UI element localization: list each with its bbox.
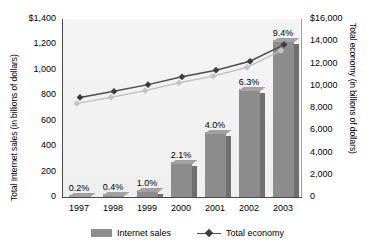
legend-item-total-economy: Total economy (197, 228, 284, 238)
y-axis-right-line (301, 19, 302, 197)
bar-label-2003: 9.4% (261, 28, 305, 38)
legend-line-icon (197, 229, 221, 237)
y-axis-right-tick: 12,000 (310, 58, 356, 68)
y-axis-right-tick: 4,000 (310, 147, 356, 157)
y-axis-left-tick: 1,000 (14, 64, 56, 74)
y-axis-right-tick: $16,000 (310, 13, 356, 23)
line-marker-1999 (145, 81, 152, 88)
legend-swatch-icon (91, 229, 112, 237)
line-marker-shadow (74, 100, 81, 107)
legend-label-total-economy: Total economy (226, 228, 284, 238)
line-marker-2000 (179, 73, 186, 80)
line-marker-1998 (111, 88, 118, 95)
legend-diamond-icon (205, 229, 213, 237)
line-series-total-economy (63, 19, 301, 197)
y-axis-left-tick: $1,400 (14, 13, 56, 23)
y-axis-left-tick: 800 (14, 89, 56, 99)
y-axis-left-tick: 600 (14, 115, 56, 125)
chart-title (0, 0, 375, 4)
legend-item-internet-sales: Internet sales (91, 228, 171, 238)
y-axis-right-tick: 0 (310, 191, 356, 201)
y-axis-left-tick: 0 (14, 191, 56, 201)
line-marker-shadow (210, 73, 217, 80)
bar-label-2001: 4.0% (193, 120, 237, 130)
y-axis-left-title: Total Internet sales (in billions of dol… (9, 54, 19, 201)
legend-label-internet-sales: Internet sales (117, 228, 171, 238)
line-marker-1997 (77, 94, 84, 101)
y-axis-left-tick: 200 (14, 166, 56, 176)
x-axis-line (62, 197, 302, 199)
line-marker-shadow (142, 87, 149, 94)
bar-label-1999: 1.0% (125, 178, 169, 188)
y-axis-right-tick: 6,000 (310, 124, 356, 134)
y-axis-left-tick: 1,200 (14, 38, 56, 48)
bar-label-2002: 6.3% (227, 77, 271, 87)
y-axis-left-tick: 400 (14, 140, 56, 150)
x-axis-tick-2003: 2003 (263, 203, 303, 213)
chart-container: Total Internet sales (in billions of dol… (0, 0, 375, 252)
line-marker-shadow (278, 47, 285, 54)
y-axis-right-tick: 8,000 (310, 102, 356, 112)
y-axis-right-tick: 10,000 (310, 80, 356, 90)
y-axis-right-tick: 14,000 (310, 35, 356, 45)
chart-legend: Internet sales Total economy (0, 228, 375, 238)
plot-area (62, 19, 300, 197)
line-marker-2003 (281, 41, 288, 48)
bar-label-2000: 2.1% (159, 150, 203, 160)
line-marker-shadow (176, 79, 183, 86)
line-marker-shadow (108, 94, 115, 101)
line-marker-shadow (244, 64, 251, 71)
y-axis-right-tick: 2,000 (310, 169, 356, 179)
line-marker-2002 (247, 58, 254, 65)
line-marker-2001 (213, 67, 220, 74)
